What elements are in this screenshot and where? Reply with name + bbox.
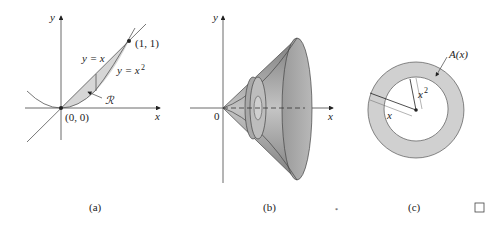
cone-cap [282, 38, 312, 180]
panel-a: y x (1, 1) (0, 0) y = x y = x 2 ℛ (a) [25, 11, 160, 214]
b-y-axis-label: y [212, 11, 218, 23]
inner-radius [410, 79, 416, 110]
caption-a: (a) [89, 201, 102, 214]
end-marker [475, 203, 484, 212]
panel-c: A(x) x 2 x (c) [368, 48, 468, 214]
panel-b: y x 0 (b) * [190, 11, 338, 214]
outer-radius-label: x [386, 109, 392, 121]
a-y-axis-label: y [49, 11, 55, 23]
curve-label: y = x [116, 64, 140, 76]
inner-radius-label: x [417, 88, 423, 100]
point-1-1-label: (1, 1) [135, 37, 159, 50]
point-1-1 [127, 39, 131, 43]
region-label: ℛ [105, 94, 115, 106]
caption-b: (b) [263, 201, 276, 214]
stray-mark: * [335, 207, 338, 213]
line-label: y = x [81, 52, 105, 64]
figure: y x (1, 1) (0, 0) y = x y = x 2 ℛ (a) y … [0, 0, 497, 228]
area-label: A(x) [448, 48, 468, 61]
b-origin-label: 0 [214, 110, 220, 122]
a-x-axis-label: x [154, 110, 160, 122]
inner-radius-exponent: 2 [424, 86, 428, 95]
b-x-axis-label: x [327, 110, 333, 122]
origin-label: (0, 0) [65, 111, 89, 124]
origin-point [59, 106, 63, 110]
caption-c: (c) [408, 201, 421, 214]
curve-exponent: 2 [141, 63, 145, 72]
